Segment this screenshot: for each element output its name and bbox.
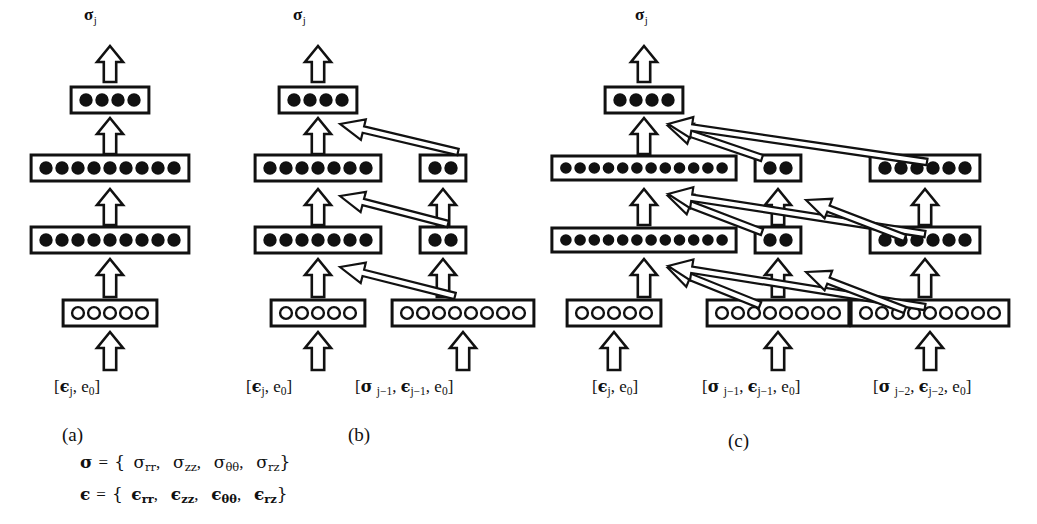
node-filled — [575, 235, 585, 245]
node-filled — [646, 163, 656, 173]
node-filled — [660, 163, 670, 173]
node-hollow — [988, 307, 1000, 319]
node-filled — [264, 234, 276, 246]
panel-b-arrow-h2-to-output — [305, 118, 331, 154]
node-hollow — [860, 307, 872, 319]
node-filled — [646, 235, 656, 245]
node-filled — [128, 94, 140, 106]
node-hollow — [592, 307, 604, 319]
node-hollow — [576, 307, 588, 319]
node-hollow — [716, 307, 728, 319]
node-filled — [88, 234, 100, 246]
node-hollow — [513, 307, 525, 319]
panel-b-skip-connection-to-output — [340, 119, 459, 155]
node-hollow — [640, 307, 652, 319]
node-filled — [312, 234, 324, 246]
node-filled — [561, 235, 571, 245]
panel-b-input-label-main: [ϵj, e0] — [246, 378, 292, 398]
panel-a-input-label: [ϵj, e0] — [54, 378, 100, 398]
node-filled — [943, 162, 955, 174]
node-filled — [88, 162, 100, 174]
node-hollow — [796, 307, 808, 319]
node-filled — [604, 163, 614, 173]
node-filled — [264, 162, 276, 174]
panel-b-input-layer — [271, 300, 365, 326]
network-diagram-svg — [0, 0, 1037, 524]
panel-b-arrow-h1-to-h2 — [305, 189, 331, 225]
panel-b-rec1-hidden-layer-1 — [420, 227, 466, 253]
node-filled — [618, 235, 628, 245]
node-filled — [168, 162, 180, 174]
node-filled — [589, 235, 599, 245]
panel-c-rec1-input-layer — [707, 300, 849, 326]
node-filled — [689, 163, 699, 173]
panel-c-input-label-recurrent-2: [σ j−2, ϵj−2, e0] — [873, 378, 971, 398]
panel-c-hidden-layer-2 — [552, 156, 736, 180]
node-filled — [328, 162, 340, 174]
sigma-subscript: j — [303, 14, 306, 26]
panel-b-output-label: σj — [293, 6, 306, 26]
node-filled — [104, 234, 116, 246]
panel-b-caption: (b) — [348, 425, 370, 444]
node-filled — [288, 94, 300, 106]
panel-c-arrow-h1-to-h2 — [631, 189, 657, 225]
node-hollow — [497, 307, 509, 319]
node-filled — [120, 162, 132, 174]
node-filled — [780, 234, 792, 246]
node-filled — [445, 162, 457, 174]
node-hollow — [956, 307, 968, 319]
node-filled — [344, 162, 356, 174]
node-hollow — [828, 307, 840, 319]
node-filled — [280, 234, 292, 246]
panel-c-arrow-input-to-h1 — [631, 259, 657, 297]
node-hollow — [465, 307, 477, 319]
node-hollow — [972, 307, 984, 319]
node-filled — [879, 162, 891, 174]
node-filled — [152, 162, 164, 174]
node-filled — [429, 162, 441, 174]
node-filled — [632, 163, 642, 173]
node-filled — [662, 94, 674, 106]
node-hollow — [296, 307, 308, 319]
node-filled — [717, 235, 727, 245]
node-filled — [120, 234, 132, 246]
panel-c-rec2-input-layer — [851, 300, 1009, 326]
node-hollow — [924, 307, 936, 319]
panel-a-output-layer — [71, 87, 149, 113]
node-hollow — [312, 307, 324, 319]
node-filled — [927, 162, 939, 174]
node-hollow — [344, 307, 356, 319]
sigma-subscript: j — [645, 14, 648, 26]
panel-c-arrow-label-to-input — [601, 332, 627, 370]
node-filled — [717, 163, 727, 173]
panel-b-arrow-label-to-input — [305, 332, 331, 370]
layer-box — [420, 227, 466, 253]
node-filled — [280, 162, 292, 174]
node-filled — [675, 163, 685, 173]
panel-b-rec1-input-layer — [392, 300, 534, 326]
node-filled — [575, 163, 585, 173]
panel-b-input-label-recurrent-1: [σ j−1, ϵj−1, e0] — [355, 378, 453, 398]
node-filled — [56, 234, 68, 246]
node-filled — [943, 234, 955, 246]
node-hollow — [481, 307, 493, 319]
panel-a-input-layer — [63, 300, 157, 326]
sigma-subscript: j — [94, 14, 97, 26]
node-hollow — [608, 307, 620, 319]
node-filled — [561, 163, 571, 173]
node-filled — [614, 94, 626, 106]
node-filled — [630, 94, 642, 106]
panel-c-arrow-h2-to-output — [631, 118, 657, 154]
node-filled — [764, 162, 776, 174]
node-hollow — [280, 307, 292, 319]
node-hollow — [876, 307, 888, 319]
node-filled — [959, 234, 971, 246]
panel-c-hidden-layer-1 — [552, 228, 736, 252]
panel-a-caption: (a) — [62, 425, 83, 444]
panel-a-arrow-to-output-label — [97, 46, 123, 82]
node-filled — [589, 163, 599, 173]
node-filled — [56, 162, 68, 174]
node-filled — [632, 235, 642, 245]
panel-c-arrow-to-output-label — [631, 46, 657, 82]
panel-c-rec2-arrow-h1-to-h2 — [912, 189, 938, 225]
